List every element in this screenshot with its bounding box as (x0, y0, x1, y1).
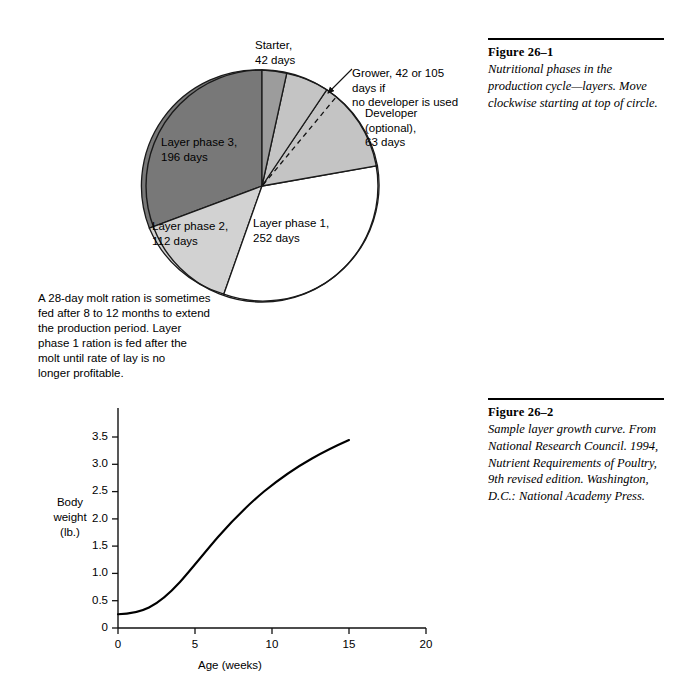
x-tick-label-0: 0 (103, 638, 133, 650)
figure-2-caption-text: Sample layer growth curve. From National… (488, 421, 664, 505)
pie-label-layer-phase-2: Layer phase 2, 112 days (152, 219, 228, 248)
x-axis-label: Age (weeks) (150, 659, 310, 671)
page-canvas: Starter, 42 days Grower, 42 or 105 days … (0, 0, 685, 687)
y-tick-label-1-0: 1.0 (78, 566, 108, 578)
pie-label-starter: Starter, 42 days (255, 38, 295, 67)
x-tick-label-10: 10 (257, 638, 287, 650)
figure-1-number: Figure 26–1 (488, 45, 664, 60)
figure-2-number: Figure 26–2 (488, 405, 664, 420)
pie-label-grower: Grower, 42 or 105 days if no developer i… (352, 66, 470, 110)
y-tick-label-3-0: 3.0 (78, 457, 108, 469)
figure-1-caption-text: Nutritional phases in the production cyc… (488, 61, 664, 111)
pie-label-developer: Developer (optional), 63 days (365, 106, 417, 150)
pie-label-layer-phase-1: Layer phase 1, 252 days (253, 216, 329, 245)
body-weight-curve (118, 440, 349, 614)
pie-footnote: A 28-day molt ration is sometimes fed af… (38, 291, 248, 381)
x-axis-ticks (118, 628, 426, 634)
x-tick-label-5: 5 (180, 638, 210, 650)
x-tick-label-15: 15 (334, 638, 364, 650)
grower-leader-line (328, 69, 352, 93)
figure-1-pie-chart: Starter, 42 days Grower, 42 or 105 days … (0, 0, 470, 385)
y-tick-label-0-5: 0.5 (78, 594, 108, 606)
y-axis-label: Body weight (lb.) (41, 495, 99, 540)
caption-rule (488, 398, 664, 400)
y-tick-label-3-5: 3.5 (78, 430, 108, 442)
caption-rule (488, 38, 664, 40)
figure-2-caption: Figure 26–2 Sample layer growth curve. F… (488, 398, 664, 505)
y-tick-label-1-5: 1.5 (78, 539, 108, 551)
pie-label-layer-phase-3: Layer phase 3, 196 days (161, 135, 237, 164)
y-axis-ticks (112, 437, 118, 628)
figure-1-caption: Figure 26–1 Nutritional phases in the pr… (488, 38, 664, 111)
x-tick-label-20: 20 (411, 638, 441, 650)
y-tick-label-0: 0 (78, 621, 108, 633)
figure-2-line-chart: 3.5 3.0 2.5 2.0 1.5 1.0 0.5 0 0 5 10 15 … (0, 390, 470, 687)
